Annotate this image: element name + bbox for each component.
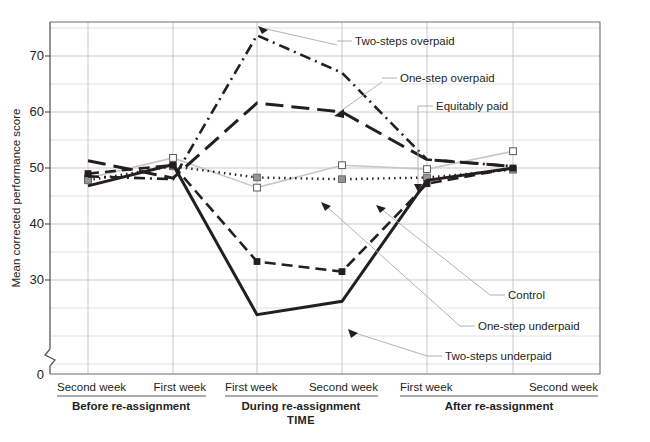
x-tick-label-0: Second week xyxy=(57,381,126,393)
marker-point xyxy=(339,176,346,183)
x-axis-title: TIME xyxy=(287,414,315,426)
marker-point xyxy=(170,155,177,162)
line-chart: 70 60 50 40 30 0 Mean corrected performa… xyxy=(0,0,650,442)
group-label-before: Before re-assignment xyxy=(72,400,190,412)
marker-point xyxy=(254,174,261,181)
callout-label-equitably-paid: Equitably paid xyxy=(436,100,508,112)
x-tick-label-3: Second week xyxy=(309,381,378,393)
x-tick-label-1: First week xyxy=(154,381,207,393)
y-tick-label-60: 60 xyxy=(30,104,44,119)
x-tick-label-2: First week xyxy=(225,381,278,393)
marker-point xyxy=(510,148,517,155)
y-tick-label-40: 40 xyxy=(30,216,44,231)
y-axis-title: Mean corrected performance score xyxy=(10,109,22,288)
marker-point xyxy=(85,170,92,177)
chart-container: 70 60 50 40 30 0 Mean corrected performa… xyxy=(0,0,650,442)
marker-point xyxy=(254,184,261,191)
x-tick-label-5: Second week xyxy=(529,381,598,393)
y-tick-label-50: 50 xyxy=(30,160,44,175)
group-label-after: After re-assignment xyxy=(445,400,554,412)
callout-label-control: Control xyxy=(508,289,545,301)
x-tick-label-4: First week xyxy=(400,381,453,393)
group-label-during: During re-assignment xyxy=(242,400,361,412)
marker-point xyxy=(339,268,346,275)
marker-point xyxy=(424,166,431,173)
marker-point xyxy=(339,162,346,169)
y-tick-label-0: 0 xyxy=(37,367,44,382)
callout-label-two-steps-underpaid: Two-steps underpaid xyxy=(445,350,552,362)
y-tick-label-30: 30 xyxy=(30,272,44,287)
marker-point xyxy=(85,177,92,184)
callout-label-one-step-overpaid: One-step overpaid xyxy=(400,72,495,84)
marker-point xyxy=(254,258,261,265)
callout-label-two-steps-overpaid: Two-steps overpaid xyxy=(355,35,455,47)
y-tick-label-70: 70 xyxy=(30,48,44,63)
callout-label-one-step-underpaid: One-step underpaid xyxy=(478,320,580,332)
